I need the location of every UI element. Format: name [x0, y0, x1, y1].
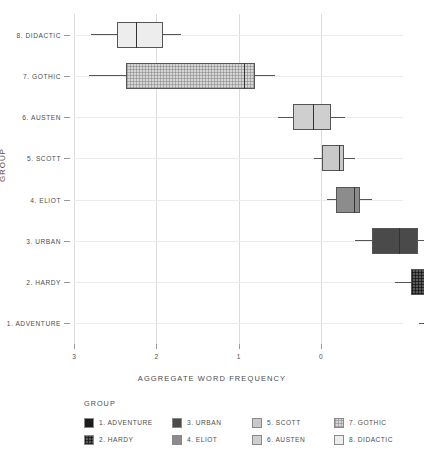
gridline-horizontal	[74, 117, 403, 118]
median-line	[136, 22, 137, 48]
y-axis-tick-mark	[64, 117, 70, 118]
x-axis-tick-mark	[156, 344, 157, 349]
median-line	[354, 187, 355, 213]
y-axis-tick-label: 8. DIDACTIC	[16, 31, 61, 38]
legend-item[interactable]: 8. DIDACTIC	[334, 435, 414, 445]
x-axis-tick-mark	[321, 344, 322, 349]
median-line	[244, 63, 245, 89]
legend-swatch-icon	[84, 418, 94, 428]
legend-item[interactable]: 4. ELIOT	[172, 435, 252, 445]
legend-item-label: 4. ELIOT	[187, 436, 217, 443]
legend-item-label: 5. SCOTT	[267, 419, 301, 426]
x-axis-tick-labels: 3210-2-1	[74, 344, 403, 364]
legend-item[interactable]: 2. HARDY	[84, 435, 172, 445]
box[interactable]	[372, 228, 418, 254]
y-axis-tick-mark	[64, 323, 70, 324]
plot-area	[74, 14, 403, 344]
y-axis-tick-labels: 8. DIDACTIC7. GOTHIC6. AUSTEN5. SCOTT4. …	[0, 14, 70, 344]
y-axis-tick-label: 6. AUSTEN	[22, 114, 61, 121]
gridline-vertical	[74, 14, 75, 344]
median-line	[313, 104, 314, 130]
legend-item[interactable]: 6. AUSTEN	[252, 435, 334, 445]
x-axis-tick-mark	[239, 344, 240, 349]
box[interactable]	[322, 145, 343, 171]
legend: GROUP 1. ADVENTURE3. URBAN5. SCOTT7. GOT…	[84, 399, 414, 448]
legend-item[interactable]: 7. GOTHIC	[334, 418, 414, 428]
y-axis-tick-label: 2. HARDY	[26, 279, 61, 286]
legend-title: GROUP	[84, 399, 414, 408]
legend-swatch-icon	[172, 418, 182, 428]
legend-item-label: 6. AUSTEN	[267, 436, 305, 443]
y-axis-tick-label: 7. GOTHIC	[23, 72, 61, 79]
y-axis-tick-mark	[64, 158, 70, 159]
median-line	[399, 228, 400, 254]
gridline-horizontal	[74, 282, 403, 283]
y-axis-tick-label: 4. ELIOT	[30, 196, 61, 203]
legend-item[interactable]: 1. ADVENTURE	[84, 418, 172, 428]
legend-swatch-icon	[84, 435, 94, 445]
y-axis-tick-mark	[64, 76, 70, 77]
whisker-line	[419, 323, 424, 324]
y-axis-tick-mark	[64, 241, 70, 242]
gridline-horizontal	[74, 323, 403, 324]
y-axis-tick-label: 1. ADVENTURE	[7, 320, 61, 327]
legend-item-label: 2. HARDY	[99, 436, 133, 443]
boxplot-figure: GROUP 8. DIDACTIC7. GOTHIC6. AUSTEN5. SC…	[0, 0, 424, 459]
legend-swatch-icon	[172, 435, 182, 445]
y-axis-tick-label: 5. SCOTT	[27, 155, 61, 162]
y-axis-tick-mark	[64, 282, 70, 283]
box[interactable]	[126, 63, 255, 89]
y-axis-tick-label: 3. URBAN	[26, 237, 61, 244]
legend-item-label: 3. URBAN	[187, 419, 221, 426]
box[interactable]	[336, 187, 361, 213]
legend-item-label: 1. ADVENTURE	[99, 419, 153, 426]
legend-item[interactable]: 3. URBAN	[172, 418, 252, 428]
y-axis-tick-mark	[64, 200, 70, 201]
gridline-vertical	[321, 14, 322, 344]
legend-item-label: 7. GOTHIC	[349, 419, 386, 426]
legend-swatch-icon	[334, 435, 344, 445]
x-axis-tick-label: 1	[237, 353, 241, 360]
x-axis-tick-label: 3	[72, 353, 76, 360]
x-axis-tick-label: 0	[319, 353, 323, 360]
legend-items: 1. ADVENTURE3. URBAN5. SCOTT7. GOTHIC2. …	[84, 414, 414, 448]
x-axis-tick-mark	[74, 344, 75, 349]
y-axis-tick-mark	[64, 35, 70, 36]
median-line	[339, 145, 340, 171]
box[interactable]	[117, 22, 163, 48]
gridline-horizontal	[74, 241, 403, 242]
legend-item-label: 8. DIDACTIC	[349, 436, 393, 443]
legend-item[interactable]: 5. SCOTT	[252, 418, 334, 428]
legend-swatch-icon	[252, 418, 262, 428]
box[interactable]	[411, 269, 424, 295]
legend-swatch-icon	[252, 435, 262, 445]
x-axis-tick-label: 2	[154, 353, 158, 360]
x-axis-title: AGGREGATE WORD FREQUENCY	[0, 374, 424, 383]
box[interactable]	[293, 104, 332, 130]
legend-swatch-icon	[334, 418, 344, 428]
